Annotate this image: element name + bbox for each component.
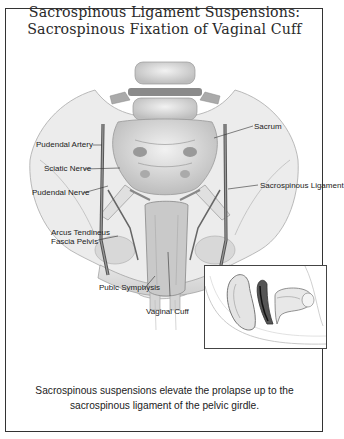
label-sacrum: Sacrum xyxy=(254,122,282,131)
label-fascia-pelvis: Fascia Pelvis xyxy=(51,237,98,246)
sacrum xyxy=(113,119,218,195)
label-sacrospinous-ligament: Sacrospinous Ligament xyxy=(260,181,344,190)
label-arcus-tendineus: Arcus Tendineus xyxy=(51,228,110,237)
label-sciatic-nerve: Sciatic Nerve xyxy=(44,164,91,173)
sagittal-inset xyxy=(204,265,327,349)
figure-caption: Sacrospinous suspensions elevate the pro… xyxy=(0,383,329,413)
caption-line-2: sacrospinous ligament of the pelvic gird… xyxy=(0,398,329,413)
lumbar-spine xyxy=(110,62,220,120)
label-pudendal-artery: Pudendal Artery xyxy=(36,140,93,149)
caption-line-1: Sacrospinous suspensions elevate the pro… xyxy=(0,383,329,398)
label-pubic-symphysis: Pubic Symphysis xyxy=(99,283,160,292)
sagittal-pelvis-illustration xyxy=(205,266,326,348)
label-pudendal-nerve: Pudendal Nerve xyxy=(32,188,89,197)
label-vaginal-cuff: Vaginal Cuff xyxy=(146,307,189,316)
